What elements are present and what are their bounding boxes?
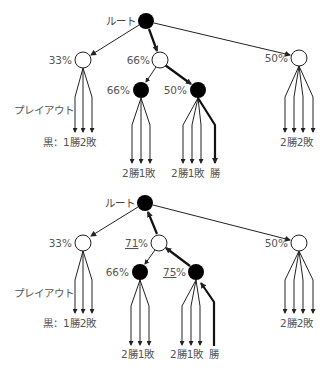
node-middle-right-label-suffix: %: [176, 266, 186, 278]
node-right-label: 50%: [265, 237, 288, 249]
mcts-diagram: ルート 33% 66% 50% 66% 50% プレイアウト 黒：1勝2敗 2勝…: [0, 0, 331, 374]
node-left: [75, 52, 91, 68]
playout-label: プレイアウト: [14, 287, 74, 299]
node-middle-left: [133, 82, 149, 98]
node-middle: [151, 235, 167, 251]
edge-root-right: [154, 23, 290, 55]
leaf-label-right: 2勝2敗: [280, 136, 314, 148]
playouts-left: [75, 68, 92, 132]
edge-root-left: [91, 25, 139, 55]
leaf-label-new: 勝: [209, 348, 220, 360]
leaf-label-left: 黒：1勝2敗: [43, 317, 97, 329]
leaf-label-left: 黒：1勝2敗: [43, 136, 97, 148]
diagram-backpropagation: ルート 33% 71 % 50% 66% 75 % プレイアウト 黒：1勝2敗 …: [14, 195, 314, 360]
playout-result-backprop: [201, 283, 214, 346]
leaf-label-right: 2勝2敗: [280, 317, 314, 329]
leaf-label-middle-left: 2勝1敗: [121, 348, 155, 360]
edge-middle-middleleft: [145, 250, 155, 264]
node-left-label: 33%: [49, 237, 72, 249]
root-label: ルート: [106, 15, 136, 27]
edge-root-middle-selected: [149, 29, 157, 51]
node-middle-left: [132, 264, 148, 280]
edge-root-right: [153, 205, 290, 240]
node-middle-left-label: 66%: [107, 84, 130, 96]
diagram-selection: ルート 33% 66% 50% 66% 50% プレイアウト 黒：1勝2敗 2勝…: [14, 13, 314, 179]
node-middle: [152, 52, 168, 68]
node-right: [291, 235, 307, 251]
edge-root-left: [91, 207, 138, 236]
node-middle-right: [188, 264, 204, 280]
leaf-label-middle-right: 2勝1敗: [171, 167, 205, 179]
playouts-right: [285, 66, 313, 132]
root-label: ルート: [105, 197, 135, 209]
playout-label: プレイアウト: [14, 104, 74, 116]
node-middle-left-label: 66%: [106, 266, 129, 278]
playouts-right: [285, 251, 313, 313]
node-right: [291, 50, 307, 66]
playouts-left: [75, 251, 92, 313]
edge-middle-middleright-selected: [165, 65, 191, 84]
node-middle-label: 66%: [127, 54, 150, 66]
edge-middleright-middle-backprop: [166, 248, 190, 266]
leaf-label-new: 勝: [210, 167, 221, 179]
node-left-label: 33%: [49, 54, 72, 66]
playouts-middle-right: [183, 98, 201, 163]
node-middle-label-suffix: %: [138, 237, 148, 249]
node-middle-right-label: 50%: [164, 84, 187, 96]
node-middle-label-value: 71: [125, 237, 138, 249]
leaf-label-middle-left: 2勝1敗: [122, 167, 156, 179]
edge-middle-middleleft: [146, 67, 156, 82]
root-node: [137, 195, 153, 211]
playouts-middle-right: [182, 280, 200, 345]
node-right-label: 50%: [265, 52, 288, 64]
leaf-label-middle-right: 2勝1敗: [170, 348, 204, 360]
node-left: [75, 235, 91, 251]
node-middle-right: [190, 82, 206, 98]
edge-middle-root-backprop: [148, 212, 157, 234]
root-node: [138, 13, 154, 29]
playouts-middle-left: [132, 98, 150, 163]
node-middle-right-label-value: 75: [163, 266, 176, 278]
playouts-middle-left: [131, 280, 149, 345]
